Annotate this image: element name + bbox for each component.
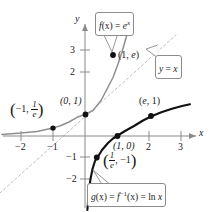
x-tick-label-3: 3	[178, 142, 183, 152]
y-tick-label-3: 3	[70, 45, 75, 55]
x-tick-label-2: 2	[146, 142, 151, 152]
point-label-log-inv-e: (1e, −1)	[103, 151, 136, 170]
fraction-denominator: e	[31, 110, 38, 119]
fraction-one-over-e: 1e	[31, 100, 38, 119]
math-figure: x y −2 −1 2 3 3 2 −1 −2 (−1, 1e) (0, 1) …	[0, 0, 211, 212]
callout-identity-line: y = x	[155, 55, 182, 79]
coord-x: 1,	[121, 49, 131, 60]
point-log-1	[115, 133, 121, 139]
callout-identity-text: y = x	[159, 64, 178, 74]
point-label-exp-0: (0, 1)	[60, 96, 82, 106]
x-axis-arrow	[189, 133, 196, 139]
ln-arg: x	[158, 192, 162, 202]
paren-open: (	[10, 100, 16, 119]
exponent-x: x	[127, 18, 130, 26]
ln-operator: ln	[148, 192, 155, 202]
y-tick-label--2: −2	[66, 174, 77, 184]
identity-rhs: x	[173, 64, 177, 74]
fraction-one-over-e: 1e	[109, 151, 116, 170]
point-exp-0	[83, 112, 89, 118]
y-axis-arrow	[82, 24, 88, 31]
point-log-e	[148, 113, 154, 119]
point-exp-1	[110, 52, 116, 58]
point-label-exp-1: (1, e)	[118, 50, 139, 60]
paren-close: )	[136, 49, 139, 60]
inverse-exponent: −1	[120, 189, 127, 197]
leader-line-exp-callout	[103, 33, 118, 52]
y-axis-label: y	[75, 14, 79, 24]
paren-close: )	[38, 100, 44, 119]
coord-rest: , 1	[147, 95, 157, 106]
point-label-log-1: (1, 0)	[113, 141, 135, 151]
f-arg: (x)	[127, 192, 138, 202]
equals-sign: =	[163, 64, 173, 74]
callout-exp-text: f(x) = ex	[99, 21, 130, 31]
x-tick-label--1: −1	[47, 142, 58, 152]
x-tick-label--2: −2	[15, 142, 26, 152]
equals-sign-2: =	[138, 192, 148, 202]
equals-sign: =	[113, 21, 123, 31]
equals-sign-1: =	[107, 192, 117, 202]
point-label-log-e: (e, 1)	[139, 96, 160, 106]
function-arg: (x)	[102, 21, 113, 31]
paren-close: )	[131, 151, 137, 170]
point-log-inv-e	[94, 155, 100, 161]
callout-log-text: g(x) = f−1(x) = ln x	[91, 192, 162, 202]
callout-logarithm-function: g(x) = f−1(x) = ln x	[87, 183, 166, 207]
paren-x: −1,	[16, 103, 32, 114]
paren-close: )	[157, 95, 160, 106]
y-tick-label--1: −1	[66, 152, 77, 162]
y-tick-label-2: 2	[70, 67, 75, 77]
callout-exponential-function: f(x) = ex	[95, 12, 134, 36]
coord-rest: , −1	[115, 154, 131, 165]
fraction-denominator: e	[109, 161, 116, 170]
point-label-exp-neg1: (−1, 1e)	[10, 100, 43, 119]
g-arg: (x)	[96, 192, 107, 202]
x-axis-label: x	[199, 128, 203, 138]
point-exp-neg1	[50, 125, 55, 130]
